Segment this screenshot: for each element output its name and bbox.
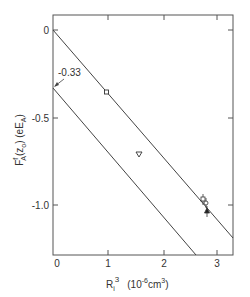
plot-frame [53,15,233,255]
x-tick-label: 3 [214,258,220,269]
y-tick-label: -0.5 [32,113,50,124]
svg-text:FfA(zo) (eEA): FfA(zo) (eEA) [12,114,27,166]
intercept-annotation: -0.33 [58,67,81,78]
data-point-square [105,90,109,94]
y-axis-label: FfA(zo) (eEA) [12,114,27,166]
x-tick-label: 2 [161,258,167,269]
arrowhead-icon [54,82,59,87]
y-tick-label: -1.0 [32,200,50,211]
y-tick-label: 0 [43,25,49,36]
data-point-triangle-down [136,152,142,157]
x-ticks [108,15,217,255]
x-axis-label: Ri3(10-6cm3) [106,275,169,292]
chart: 0 -0.5 -1.0 0 1 2 3 -0.33 FfA(zo) (eEA) … [0,0,250,297]
x-tick-label: 0 [54,258,60,269]
x-tick-label: 1 [105,258,111,269]
svg-text:Ri3(10-6cm3): Ri3(10-6cm3) [106,275,169,292]
y-ticks [53,30,233,205]
